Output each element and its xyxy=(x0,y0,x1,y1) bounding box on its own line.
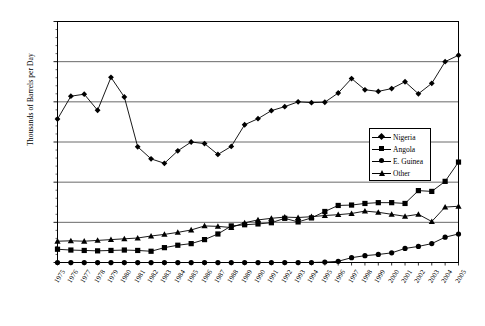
legend-item-label: Nigeria xyxy=(391,133,416,142)
data-point-marker xyxy=(296,219,301,224)
data-point-marker xyxy=(135,260,140,265)
data-point-marker xyxy=(202,260,207,265)
data-point-marker xyxy=(55,260,60,265)
data-point-marker xyxy=(375,88,381,94)
chart-legend[interactable]: NigeriaAngolaE. GuineaOther xyxy=(369,128,431,181)
data-point-marker xyxy=(202,237,207,242)
data-point-marker xyxy=(162,245,167,250)
data-point-marker xyxy=(349,255,354,260)
data-point-marker xyxy=(68,247,73,252)
data-point-marker xyxy=(255,260,260,265)
legend-item-angola[interactable]: Angola xyxy=(370,143,430,155)
data-point-marker xyxy=(416,188,421,193)
data-point-marker xyxy=(362,201,367,206)
legend-item-other[interactable]: Other xyxy=(370,167,430,179)
data-point-marker xyxy=(269,260,274,265)
data-point-marker xyxy=(322,99,328,105)
data-point-marker xyxy=(429,241,434,246)
data-point-marker xyxy=(268,108,274,114)
data-point-marker xyxy=(162,260,167,265)
data-point-marker xyxy=(443,179,448,184)
data-point-marker xyxy=(269,220,274,225)
data-point-marker xyxy=(229,260,234,265)
data-point-marker xyxy=(95,248,100,253)
data-point-marker xyxy=(336,259,341,264)
data-point-marker xyxy=(108,74,114,80)
legend-diamond-marker-icon xyxy=(372,132,391,142)
data-point-marker xyxy=(376,252,381,257)
data-point-marker xyxy=(456,52,462,58)
data-point-marker xyxy=(242,260,247,265)
data-point-marker xyxy=(362,253,367,258)
data-point-marker xyxy=(376,200,381,205)
data-point-marker xyxy=(68,260,73,265)
data-point-marker xyxy=(215,260,220,265)
legend-item-label: Angola xyxy=(391,145,415,154)
data-point-marker xyxy=(349,202,354,207)
data-point-marker xyxy=(135,248,140,253)
data-point-marker xyxy=(456,231,461,236)
data-point-marker xyxy=(415,211,421,217)
data-point-marker xyxy=(55,247,60,252)
data-point-marker xyxy=(108,248,113,253)
data-point-marker xyxy=(148,260,153,265)
data-point-marker xyxy=(121,94,127,100)
data-point-marker xyxy=(255,116,261,122)
legend-triangle-marker-icon xyxy=(372,168,391,178)
data-point-marker xyxy=(309,100,315,106)
data-point-marker xyxy=(108,260,113,265)
data-point-marker xyxy=(188,139,194,145)
data-point-marker xyxy=(416,244,421,249)
data-point-marker xyxy=(336,203,341,208)
data-point-marker xyxy=(322,259,327,264)
data-point-marker xyxy=(362,208,368,214)
data-point-marker xyxy=(455,203,461,209)
data-point-marker xyxy=(82,260,87,265)
data-point-marker xyxy=(189,260,194,265)
data-point-marker xyxy=(68,93,74,99)
data-point-marker xyxy=(95,260,100,265)
legend-item-label: E. Guinea xyxy=(391,157,423,166)
data-point-marker xyxy=(456,159,461,164)
legend-circle-marker-icon xyxy=(372,156,391,166)
data-point-marker xyxy=(148,249,153,254)
data-point-marker xyxy=(443,235,448,240)
data-point-marker xyxy=(175,260,180,265)
data-point-marker xyxy=(389,250,394,255)
data-point-marker xyxy=(282,104,288,110)
data-point-marker xyxy=(442,59,448,65)
data-point-marker xyxy=(296,260,301,265)
data-point-marker xyxy=(122,247,127,252)
legend-square-marker-icon xyxy=(372,144,391,154)
data-point-marker xyxy=(402,246,407,251)
data-point-marker xyxy=(389,86,395,92)
data-point-marker xyxy=(389,200,394,205)
data-point-marker xyxy=(295,99,301,105)
legend-item-nigeria[interactable]: Nigeria xyxy=(370,131,430,143)
data-point-marker xyxy=(282,260,287,265)
data-point-marker xyxy=(175,243,180,248)
data-point-marker xyxy=(189,241,194,246)
data-point-marker xyxy=(122,260,127,265)
legend-item-label: Other xyxy=(391,169,410,178)
chart-container: Thousands of Barrels per Day 05001,0001,… xyxy=(0,0,485,326)
series-e-guinea xyxy=(55,231,461,265)
data-point-marker xyxy=(309,260,314,265)
data-point-marker xyxy=(55,116,61,122)
data-point-marker xyxy=(429,189,434,194)
data-point-marker xyxy=(82,248,87,253)
series-line xyxy=(58,234,459,263)
data-point-marker xyxy=(228,144,234,150)
data-point-marker xyxy=(402,201,407,206)
legend-item-e-guinea[interactable]: E. Guinea xyxy=(370,155,430,167)
data-point-marker xyxy=(215,231,220,236)
data-point-marker xyxy=(242,122,248,128)
